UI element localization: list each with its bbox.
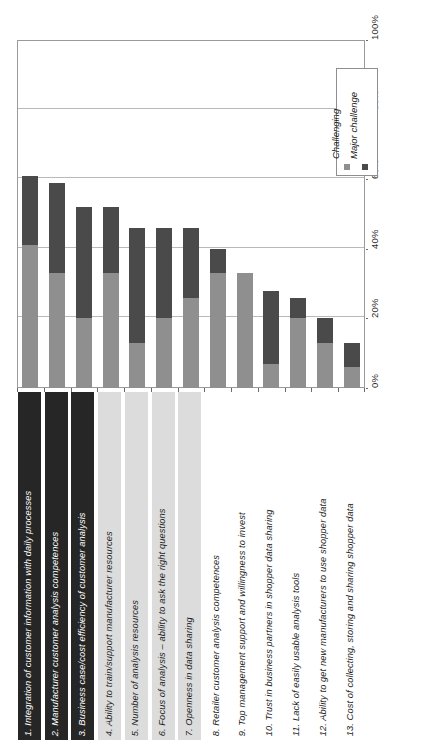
category-label-text: 1. Integration of customer information w… — [25, 490, 34, 736]
category-label-cell: 1. Integration of customer information w… — [18, 392, 41, 740]
bar-column — [317, 318, 333, 388]
category-label-cell: 12. Ability to get new manufacturers to … — [312, 392, 335, 740]
stacked-bar-chart: 0%20%40%60%80%100% Challenging Major cha… — [0, 0, 437, 752]
bar-segment-major-challenge — [344, 343, 360, 367]
value-axis-tick-label: 100% — [369, 15, 380, 40]
value-axis-tick-label: 0% — [369, 374, 380, 388]
category-label-text: 12. Ability to get new manufacturers to … — [319, 498, 328, 736]
category-label-cell: 13. Cost of collecting, storing and shar… — [339, 392, 362, 740]
bar-segment-challenging — [22, 245, 38, 388]
bar-segment-challenging — [156, 318, 172, 388]
bar-column — [210, 249, 226, 388]
bar-segment-challenging — [290, 318, 306, 388]
category-label-text: 2. Manufacturer customer analysis compet… — [51, 532, 60, 736]
value-axis-tick-label: 40% — [369, 229, 380, 249]
legend-label: Major challenge — [348, 92, 359, 159]
category-label-text: 3. Business case/cost efficiency of cust… — [78, 512, 87, 736]
category-label-text: 13. Cost of collecting, storing and shar… — [346, 503, 355, 736]
category-label-text: 8. Retailer customer analysis competence… — [212, 555, 221, 736]
category-label-cell: 5. Number of analysis resources — [125, 392, 148, 740]
value-axis-tick — [366, 388, 368, 389]
category-label-cell: 2. Manufacturer customer analysis compet… — [45, 392, 68, 740]
bar-segment-major-challenge — [103, 207, 119, 273]
bar-segment-major-challenge — [317, 318, 333, 342]
bar-column — [103, 207, 119, 388]
bar-segment-challenging — [129, 343, 145, 388]
bar-segment-challenging — [103, 273, 119, 388]
category-label-cell: 4. Ability to train/support manufacturer… — [98, 392, 121, 740]
bar-column — [76, 207, 92, 388]
light-gray-swatch-icon — [344, 164, 350, 170]
bar-segment-challenging — [76, 318, 92, 388]
value-axis-tick — [366, 318, 368, 319]
bar-column — [183, 228, 199, 388]
bar-segment-major-challenge — [210, 249, 226, 273]
category-label-text: 9. Top management support and willingnes… — [239, 512, 248, 736]
bar-segment-challenging — [49, 273, 65, 388]
category-label-text: 6. Focus of analysis – ability to ask th… — [158, 508, 167, 736]
chart-legend: Challenging Major challenge — [336, 68, 378, 176]
category-label-cell: 7. Openness in data sharing — [178, 392, 201, 740]
bar-segment-major-challenge — [183, 228, 199, 298]
category-label-cell: 9. Top management support and willingnes… — [232, 392, 255, 740]
legend-label: Challenging — [330, 109, 341, 159]
category-label-text: 5. Number of analysis resources — [132, 600, 141, 736]
category-label-text: 4. Ability to train/support manufacturer… — [105, 531, 114, 736]
bar-segment-major-challenge — [49, 183, 65, 273]
category-label-cell: 3. Business case/cost efficiency of cust… — [71, 392, 94, 740]
bar-segment-challenging — [237, 273, 253, 388]
category-label-cell: 10. Trust in business partners in shoppe… — [259, 392, 282, 740]
bar-column — [156, 228, 172, 388]
category-label-cell: 6. Focus of analysis – ability to ask th… — [152, 392, 175, 740]
category-label-cell: 8. Retailer customer analysis competence… — [205, 392, 228, 740]
bar-column — [344, 343, 360, 388]
legend-entry-major-challenge: Major challenge — [358, 70, 376, 170]
bar-segment-challenging — [210, 273, 226, 388]
bar-segment-major-challenge — [76, 207, 92, 318]
bar-column — [237, 273, 253, 388]
bar-segment-major-challenge — [156, 228, 172, 318]
bar-column — [129, 228, 145, 388]
category-label-text: 7. Openness in data sharing — [185, 617, 194, 736]
category-label-cell: 11. Lack of easily usable analysis tools — [285, 392, 308, 740]
bar-segment-major-challenge — [263, 291, 279, 364]
bar-column — [263, 291, 279, 388]
bar-column — [290, 298, 306, 388]
bars-layer — [17, 40, 365, 388]
bar-segment-major-challenge — [290, 298, 306, 319]
bar-column — [49, 183, 65, 388]
bar-segment-challenging — [263, 364, 279, 388]
bar-segment-major-challenge — [22, 176, 38, 246]
bar-segment-challenging — [344, 367, 360, 388]
bar-column — [22, 176, 38, 388]
bar-segment-major-challenge — [129, 228, 145, 343]
category-label-text: 11. Lack of easily usable analysis tools — [292, 572, 301, 736]
value-axis-tick — [366, 179, 368, 180]
category-labels: 1. Integration of customer information w… — [17, 392, 365, 748]
value-axis-tick — [366, 40, 368, 41]
bar-segment-challenging — [183, 298, 199, 388]
value-axis-tick-label: 20% — [369, 299, 380, 319]
dark-gray-swatch-icon — [362, 164, 368, 170]
bar-segment-challenging — [317, 343, 333, 388]
category-label-text: 10. Trust in business partners in shoppe… — [266, 509, 275, 736]
